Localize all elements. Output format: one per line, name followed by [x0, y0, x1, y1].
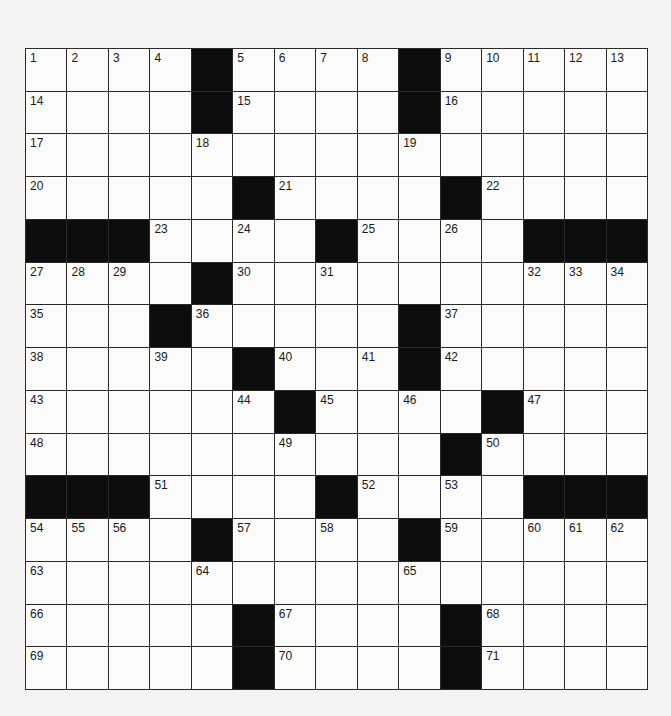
grid-cell[interactable]	[482, 92, 522, 134]
grid-cell[interactable]: 52	[358, 476, 398, 518]
grid-cell[interactable]	[109, 605, 149, 647]
grid-cell[interactable]: 67	[275, 605, 315, 647]
grid-cell[interactable]	[607, 605, 647, 647]
grid-cell[interactable]	[150, 647, 190, 689]
grid-cell[interactable]	[109, 562, 149, 604]
grid-cell[interactable]	[524, 305, 564, 347]
grid-cell[interactable]: 60	[524, 519, 564, 561]
grid-cell[interactable]	[358, 434, 398, 476]
grid-cell[interactable]: 30	[233, 263, 273, 305]
grid-cell[interactable]: 46	[399, 391, 439, 433]
grid-cell[interactable]	[192, 177, 232, 219]
grid-cell[interactable]: 12	[565, 49, 605, 91]
grid-cell[interactable]	[316, 348, 356, 390]
grid-cell[interactable]: 21	[275, 177, 315, 219]
grid-cell[interactable]	[441, 263, 481, 305]
grid-cell[interactable]: 8	[358, 49, 398, 91]
grid-cell[interactable]	[565, 391, 605, 433]
grid-cell[interactable]	[524, 177, 564, 219]
grid-cell[interactable]	[358, 92, 398, 134]
grid-cell[interactable]: 17	[26, 134, 66, 176]
grid-cell[interactable]: 48	[26, 434, 66, 476]
grid-cell[interactable]	[399, 177, 439, 219]
grid-cell[interactable]	[565, 434, 605, 476]
grid-cell[interactable]	[524, 92, 564, 134]
grid-cell[interactable]	[275, 134, 315, 176]
grid-cell[interactable]	[399, 476, 439, 518]
grid-cell[interactable]	[399, 605, 439, 647]
grid-cell[interactable]	[358, 562, 398, 604]
grid-cell[interactable]	[275, 220, 315, 262]
grid-cell[interactable]: 16	[441, 92, 481, 134]
grid-cell[interactable]: 70	[275, 647, 315, 689]
grid-cell[interactable]	[441, 562, 481, 604]
grid-cell[interactable]	[67, 305, 107, 347]
grid-cell[interactable]	[150, 92, 190, 134]
grid-cell[interactable]: 25	[358, 220, 398, 262]
grid-cell[interactable]	[316, 434, 356, 476]
grid-cell[interactable]: 19	[399, 134, 439, 176]
grid-cell[interactable]	[150, 177, 190, 219]
grid-cell[interactable]	[482, 519, 522, 561]
grid-cell[interactable]	[524, 434, 564, 476]
grid-cell[interactable]: 47	[524, 391, 564, 433]
grid-cell[interactable]: 71	[482, 647, 522, 689]
grid-cell[interactable]: 3	[109, 49, 149, 91]
grid-cell[interactable]	[316, 177, 356, 219]
grid-cell[interactable]	[316, 134, 356, 176]
grid-cell[interactable]	[607, 391, 647, 433]
grid-cell[interactable]	[358, 177, 398, 219]
grid-cell[interactable]	[482, 263, 522, 305]
grid-cell[interactable]	[150, 134, 190, 176]
grid-cell[interactable]	[67, 134, 107, 176]
grid-cell[interactable]	[524, 647, 564, 689]
grid-cell[interactable]: 24	[233, 220, 273, 262]
grid-cell[interactable]	[233, 434, 273, 476]
grid-cell[interactable]	[607, 92, 647, 134]
grid-cell[interactable]	[150, 263, 190, 305]
grid-cell[interactable]: 31	[316, 263, 356, 305]
grid-cell[interactable]	[67, 562, 107, 604]
grid-cell[interactable]	[192, 391, 232, 433]
grid-cell[interactable]	[358, 647, 398, 689]
grid-cell[interactable]: 39	[150, 348, 190, 390]
grid-cell[interactable]	[150, 434, 190, 476]
grid-cell[interactable]	[482, 562, 522, 604]
grid-cell[interactable]	[109, 177, 149, 219]
grid-cell[interactable]	[109, 92, 149, 134]
grid-cell[interactable]: 7	[316, 49, 356, 91]
grid-cell[interactable]	[358, 263, 398, 305]
grid-cell[interactable]	[233, 305, 273, 347]
grid-cell[interactable]	[524, 134, 564, 176]
grid-cell[interactable]	[565, 305, 605, 347]
grid-cell[interactable]	[233, 562, 273, 604]
grid-cell[interactable]	[482, 476, 522, 518]
grid-cell[interactable]: 63	[26, 562, 66, 604]
grid-cell[interactable]	[524, 562, 564, 604]
grid-cell[interactable]	[109, 434, 149, 476]
grid-cell[interactable]: 36	[192, 305, 232, 347]
grid-cell[interactable]	[275, 92, 315, 134]
grid-cell[interactable]: 65	[399, 562, 439, 604]
grid-cell[interactable]	[67, 348, 107, 390]
grid-cell[interactable]	[109, 305, 149, 347]
grid-cell[interactable]	[150, 391, 190, 433]
grid-cell[interactable]: 55	[67, 519, 107, 561]
grid-cell[interactable]: 62	[607, 519, 647, 561]
grid-cell[interactable]: 6	[275, 49, 315, 91]
grid-cell[interactable]: 11	[524, 49, 564, 91]
grid-cell[interactable]: 29	[109, 263, 149, 305]
grid-cell[interactable]	[275, 305, 315, 347]
grid-cell[interactable]: 42	[441, 348, 481, 390]
grid-cell[interactable]: 26	[441, 220, 481, 262]
grid-cell[interactable]	[275, 263, 315, 305]
grid-cell[interactable]: 54	[26, 519, 66, 561]
grid-cell[interactable]: 14	[26, 92, 66, 134]
grid-cell[interactable]	[524, 605, 564, 647]
grid-cell[interactable]	[67, 605, 107, 647]
grid-cell[interactable]	[316, 605, 356, 647]
grid-cell[interactable]: 34	[607, 263, 647, 305]
grid-cell[interactable]: 4	[150, 49, 190, 91]
grid-cell[interactable]	[565, 348, 605, 390]
grid-cell[interactable]: 32	[524, 263, 564, 305]
